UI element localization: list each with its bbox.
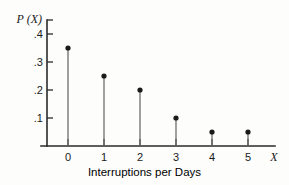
x-axis-ticks [68,139,248,146]
y-tick-label-3: .1 [34,112,43,124]
data-point-marker [65,45,70,50]
stem-plot-canvas: .4 .3 .2 .1 P (X) 0 1 2 3 4 5 X [0,0,289,185]
y-tick-label-0: .4 [34,28,43,40]
y-tick-label-2: .2 [34,84,43,96]
data-series [65,45,250,146]
x-tick-label-2: 2 [137,151,143,163]
x-tick-label-1: 1 [101,151,107,163]
data-point-marker [173,115,178,120]
x-axis-label: X [269,150,278,164]
x-tick-label-3: 3 [173,151,179,163]
data-point-marker [101,73,106,78]
y-axis-label: P (X) [16,12,42,26]
x-tick-label-4: 4 [209,151,215,163]
data-point-marker [137,87,142,92]
y-tick-label-1: .3 [34,56,43,68]
chart-figure: .4 .3 .2 .1 P (X) 0 1 2 3 4 5 X [0,0,289,185]
x-tick-label-0: 0 [65,151,71,163]
y-axis-tick-labels: .4 .3 .2 .1 [34,28,43,124]
y-axis-ticks [47,20,53,118]
data-point-marker [245,129,250,134]
x-axis-title: Interruptions per Days [0,166,289,178]
x-axis-tick-labels: 0 1 2 3 4 5 [65,151,251,163]
x-tick-label-5: 5 [245,151,251,163]
data-point-marker [209,129,214,134]
